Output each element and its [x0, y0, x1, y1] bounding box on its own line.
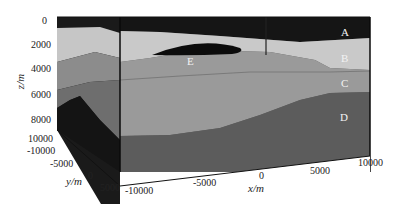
z-tick-0: 0 — [42, 16, 47, 26]
geological-model-figure: 0 2000 4000 6000 8000 10000 z/m -10000 -… — [0, 0, 402, 204]
layer-label-c: C — [341, 78, 348, 89]
x-tick-neg5000: -5000 — [193, 178, 216, 188]
z-axis-label: z/m — [15, 74, 26, 89]
layer-label-d: D — [340, 112, 348, 123]
z-tick-10000: 10000 — [28, 134, 53, 144]
layer-label-a: A — [341, 27, 349, 38]
front-face — [120, 17, 370, 172]
z-tick-4000: 4000 — [31, 64, 51, 74]
y-tick-0: 0 — [88, 171, 93, 181]
y-tick-neg10000: -10000 — [27, 146, 55, 156]
y-tick-5000: 5000 — [100, 183, 120, 193]
layer-label-e: E — [187, 56, 194, 67]
layer-label-b: B — [341, 53, 348, 64]
x-axis-label: x/m — [248, 183, 264, 194]
z-tick-2000: 2000 — [31, 40, 51, 50]
y-axis-label: y/m — [66, 176, 82, 187]
x-tick-5000: 5000 — [310, 166, 330, 176]
z-tick-6000: 6000 — [31, 90, 51, 100]
z-tick-8000: 8000 — [31, 115, 51, 125]
x-tick-10000: 10000 — [358, 158, 383, 168]
x-tick-0: 0 — [259, 171, 264, 181]
x-tick-neg10000: -10000 — [125, 186, 153, 196]
y-tick-neg5000: -5000 — [50, 159, 73, 169]
